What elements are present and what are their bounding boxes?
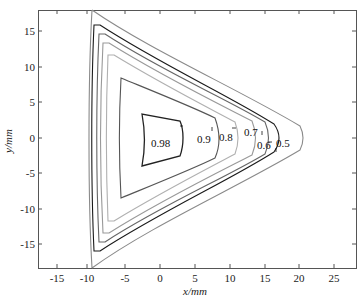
y-tick-labels: 15 10 5 0 -5 -10 -15 bbox=[20, 25, 35, 250]
contour-labels: 0.98 0.9 0.8 0.7 0.6 0.5 bbox=[151, 126, 290, 151]
x-axis-label: x/mm bbox=[182, 285, 207, 297]
svg-text:25: 25 bbox=[329, 272, 341, 284]
contour-lines bbox=[89, 10, 303, 268]
contour-label-0.9: 0.9 bbox=[197, 133, 211, 145]
svg-text:5: 5 bbox=[192, 272, 198, 284]
svg-text:15: 15 bbox=[260, 272, 272, 284]
contour-outer bbox=[89, 10, 303, 268]
x-tick-labels: -15 -10 -5 0 5 10 15 20 25 bbox=[50, 272, 340, 284]
contour-label-0.8: 0.8 bbox=[219, 131, 233, 143]
svg-text:0: 0 bbox=[157, 272, 163, 284]
contour-chart: -15 -10 -5 0 5 10 15 20 25 15 10 5 0 -5 … bbox=[0, 0, 362, 302]
svg-text:-5: -5 bbox=[120, 272, 130, 284]
svg-text:-5: -5 bbox=[26, 167, 36, 179]
svg-text:-15: -15 bbox=[20, 238, 35, 250]
svg-text:15: 15 bbox=[24, 25, 36, 37]
contour-label-0.7: 0.7 bbox=[244, 126, 258, 138]
svg-text:10: 10 bbox=[225, 272, 237, 284]
contour-label-0.5: 0.5 bbox=[276, 137, 290, 149]
svg-text:-10: -10 bbox=[20, 203, 35, 215]
svg-text:5: 5 bbox=[30, 96, 36, 108]
svg-text:-15: -15 bbox=[50, 272, 65, 284]
svg-text:20: 20 bbox=[294, 272, 306, 284]
svg-text:0: 0 bbox=[30, 132, 36, 144]
svg-text:-10: -10 bbox=[80, 272, 95, 284]
contour-label-0.6: 0.6 bbox=[257, 139, 271, 151]
svg-text:10: 10 bbox=[24, 61, 36, 73]
y-axis-label: y/mm bbox=[2, 129, 14, 154]
contour-label-0.98: 0.98 bbox=[151, 137, 171, 149]
